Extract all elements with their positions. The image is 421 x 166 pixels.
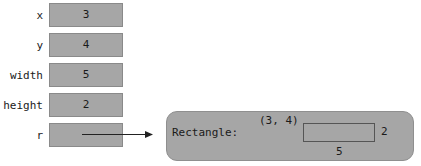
rectangle-shape bbox=[303, 123, 375, 142]
width-label: 5 bbox=[336, 146, 343, 158]
height-label: 2 bbox=[381, 126, 388, 138]
object-type-label: Rectangle: bbox=[172, 127, 238, 139]
corner-label: (3, 4) bbox=[259, 115, 299, 127]
